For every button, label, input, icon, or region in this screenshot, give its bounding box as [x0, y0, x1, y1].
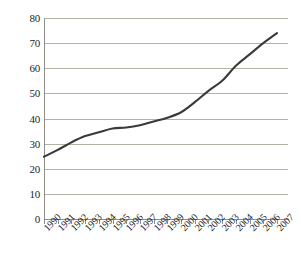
data-line-series-1: [44, 33, 277, 157]
line-chart: 01020304050607080 1990199119921993199419…: [0, 0, 301, 265]
data-series-layer: [0, 0, 301, 265]
